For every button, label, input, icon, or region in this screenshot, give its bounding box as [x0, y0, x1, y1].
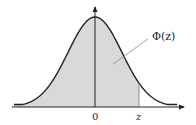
z-label: z: [135, 111, 142, 122]
normal-distribution-diagram: Φ(z) 0 z: [0, 0, 196, 125]
phi-label: Φ(z): [152, 30, 175, 43]
shaded-area: [14, 17, 139, 107]
origin-label: 0: [92, 111, 98, 122]
